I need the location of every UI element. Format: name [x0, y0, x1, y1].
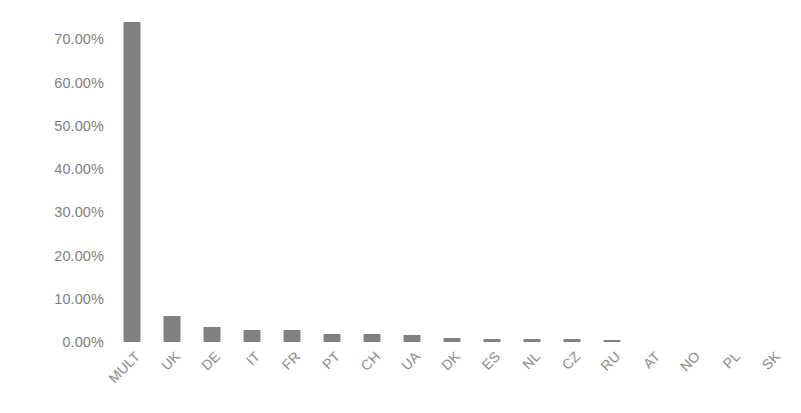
- bar[interactable]: [604, 340, 621, 342]
- x-axis-tick-slot: DK: [432, 344, 472, 413]
- x-axis-tick-label: DK: [438, 348, 463, 373]
- x-axis-tick-slot: SK: [752, 344, 792, 413]
- x-axis-tick-label: NL: [519, 348, 543, 372]
- bar-slot: [592, 22, 632, 342]
- bar[interactable]: [564, 339, 581, 342]
- x-axis-tick-label: NO: [677, 348, 703, 374]
- bar-slot: [632, 22, 672, 342]
- bar[interactable]: [164, 316, 181, 342]
- x-axis-tick-slot: CH: [352, 344, 392, 413]
- bar[interactable]: [444, 338, 461, 342]
- y-axis-tick-label: 20.00%: [54, 248, 104, 264]
- bar-slot: [272, 22, 312, 342]
- y-axis-tick-label: 70.00%: [54, 31, 104, 47]
- bar-slot: [232, 22, 272, 342]
- bar-slot: [352, 22, 392, 342]
- x-axis-tick-label: FR: [279, 348, 304, 373]
- x-axis-tick-label: DE: [198, 348, 223, 373]
- x-axis-tick-label: CZ: [559, 348, 584, 373]
- x-axis-tick-slot: NO: [672, 344, 712, 413]
- bar-slot: [432, 22, 472, 342]
- x-axis-tick-slot: PT: [312, 344, 352, 413]
- x-axis-tick-label: SK: [759, 348, 784, 373]
- y-axis-tick-label: 40.00%: [54, 161, 104, 177]
- bar-slot: [552, 22, 592, 342]
- bar-slot: [152, 22, 192, 342]
- bar-chart: 0.00%10.00%20.00%30.00%40.00%50.00%60.00…: [0, 0, 801, 413]
- x-axis-tick-slot: ES: [472, 344, 512, 413]
- y-axis: 0.00%10.00%20.00%30.00%40.00%50.00%60.00…: [0, 0, 112, 413]
- bar[interactable]: [404, 335, 421, 342]
- y-axis-tick-label: 0.00%: [62, 334, 104, 350]
- bar[interactable]: [204, 327, 221, 342]
- x-axis-tick-slot: RU: [592, 344, 632, 413]
- bar-slot: [712, 22, 752, 342]
- x-axis-tick-slot: UK: [152, 344, 192, 413]
- bar-slot: [112, 22, 152, 342]
- x-axis-tick-label: PL: [720, 348, 744, 372]
- bar-slot: [512, 22, 552, 342]
- x-axis-tick-label: UA: [398, 348, 423, 373]
- bar-slot: [192, 22, 232, 342]
- bar[interactable]: [284, 330, 301, 342]
- bar[interactable]: [484, 339, 501, 342]
- bar[interactable]: [364, 334, 381, 342]
- x-axis-tick-label: RU: [597, 348, 623, 374]
- bar[interactable]: [244, 330, 261, 342]
- x-axis-tick-slot: MULT: [112, 344, 152, 413]
- x-axis-tick-slot: UA: [392, 344, 432, 413]
- bar-slot: [312, 22, 352, 342]
- x-axis-tick-label: ES: [479, 348, 504, 373]
- x-axis-tick-label: PT: [319, 348, 343, 372]
- bar-slot: [752, 22, 792, 342]
- x-axis-tick-label: CH: [357, 348, 383, 374]
- plot-area: [112, 22, 792, 342]
- y-axis-tick-label: 50.00%: [54, 118, 104, 134]
- x-axis-tick-slot: NL: [512, 344, 552, 413]
- x-axis-tick-slot: FR: [272, 344, 312, 413]
- bar[interactable]: [524, 339, 541, 342]
- bar[interactable]: [324, 334, 341, 342]
- x-axis-tick-slot: PL: [712, 344, 752, 413]
- x-axis-tick-label: AT: [640, 348, 664, 372]
- x-axis-tick-slot: IT: [232, 344, 272, 413]
- bar-slot: [672, 22, 712, 342]
- x-axis-tick-label: IT: [243, 348, 263, 368]
- x-axis-tick-slot: DE: [192, 344, 232, 413]
- y-axis-tick-label: 60.00%: [54, 75, 104, 91]
- x-axis-tick-slot: AT: [632, 344, 672, 413]
- bar-slot: [392, 22, 432, 342]
- bar[interactable]: [124, 22, 141, 342]
- x-axis: MULTUKDEITFRPTCHUADKESNLCZRUATNOPLSK: [112, 344, 792, 413]
- bar-slot: [472, 22, 512, 342]
- y-axis-tick-label: 30.00%: [54, 204, 104, 220]
- x-axis-tick-slot: CZ: [552, 344, 592, 413]
- x-axis-tick-label: UK: [158, 348, 183, 373]
- y-axis-tick-label: 10.00%: [54, 291, 104, 307]
